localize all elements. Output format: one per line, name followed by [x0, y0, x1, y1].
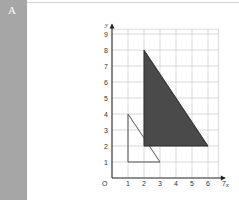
y-axis-arrow-icon [110, 23, 115, 28]
x-tick-label: 5 [190, 180, 194, 187]
x-tick-label: 6 [206, 180, 210, 187]
y-tick-label: 6 [104, 79, 108, 86]
y-tick-label: 5 [104, 95, 108, 102]
y-tick-label: 7 [104, 63, 108, 70]
y-tick-label: 3 [104, 127, 108, 134]
x-tick-label: 3 [158, 180, 162, 187]
y-tick-label: 9 [104, 31, 108, 38]
x-tick-label: 4 [174, 180, 178, 187]
x-tick-label: 2 [142, 180, 146, 187]
y-tick-label: 8 [104, 47, 108, 54]
x-tick-label: 1 [126, 180, 130, 187]
y-axis-label: y [104, 21, 109, 29]
x-axis-label: x [225, 181, 230, 189]
y-tick-label: 2 [104, 143, 108, 150]
origin-label: O [102, 180, 108, 187]
y-tick-label: 4 [104, 111, 108, 118]
coordinate-grid-chart: 1234567123456789Oxy [0, 0, 239, 200]
y-tick-label: 1 [104, 159, 108, 166]
